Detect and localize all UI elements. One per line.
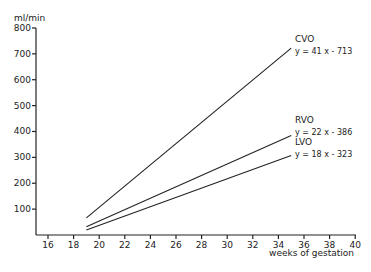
series-label: CVO [295, 34, 314, 44]
series-equation: y = 18 x - 323 [295, 150, 352, 159]
x-tick-label: 18 [68, 240, 80, 250]
series-lines: CVOy = 41 x - 713RVOy = 22 x - 386LVOy =… [86, 34, 352, 230]
y-tick-label: 400 [14, 126, 31, 136]
y-tick-label: 100 [14, 204, 31, 214]
series-equation: y = 22 x - 386 [295, 128, 352, 137]
x-tick-label: 32 [247, 240, 258, 250]
y-tick-label: 800 [14, 23, 31, 33]
series-line-rvo [86, 136, 291, 227]
x-tick-label: 28 [196, 240, 208, 250]
y-tick-label: 200 [14, 178, 31, 188]
x-tick-label: 30 [221, 240, 233, 250]
series-label: LVO [295, 137, 312, 147]
x-tick-label: 22 [119, 240, 130, 250]
series-equation: y = 41 x - 713 [295, 47, 352, 56]
y-ticks: 100200300400500600700800 [14, 23, 36, 214]
x-tick-label: 16 [42, 240, 54, 250]
y-tick-label: 500 [14, 101, 31, 111]
y-tick-label: 600 [14, 75, 31, 85]
y-tick-label: 300 [14, 152, 31, 162]
y-axis-label: ml/min [14, 13, 45, 23]
x-tick-label: 26 [170, 240, 182, 250]
x-tick-label: 24 [145, 240, 157, 250]
x-axis-label: weeks of gestation [269, 248, 354, 258]
series-label: RVO [295, 115, 314, 125]
y-tick-label: 700 [14, 49, 31, 59]
chart: 100200300400500600700800 161820222426283… [0, 0, 371, 272]
x-tick-label: 20 [93, 240, 105, 250]
